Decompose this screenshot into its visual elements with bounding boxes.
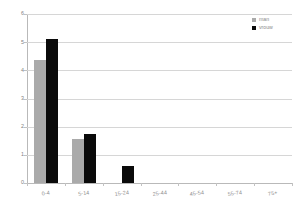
bar-vrouw-0-4[interactable]: [46, 39, 58, 183]
y-tick-label: 2: [8, 124, 24, 129]
plot-area: [27, 14, 292, 183]
chart-legend: man vrouw: [252, 17, 273, 30]
x-tick-mark: [254, 183, 255, 186]
x-tick-mark: [103, 183, 104, 186]
y-tick-label: 0: [8, 180, 24, 185]
bar-group: [141, 14, 179, 183]
x-tick-mark: [178, 183, 179, 186]
legend-swatch-icon-man: [252, 18, 256, 22]
x-tick-label-0-4: 0-4: [27, 188, 65, 199]
bar-group: [216, 14, 254, 183]
bar-vrouw-5-14[interactable]: [84, 134, 96, 183]
x-axis-line: [27, 183, 292, 184]
bar-group: [103, 14, 141, 183]
bar-vrouw-15-24[interactable]: [122, 166, 134, 183]
x-tick-label-55-74: 55-74: [216, 188, 254, 199]
y-tick-label: 4: [8, 68, 24, 73]
y-tick-label: 6: [8, 11, 24, 16]
legend-label-vrouw: vrouw: [259, 25, 273, 30]
legend-swatch-icon-vrouw: [252, 26, 256, 30]
legend-item-vrouw[interactable]: vrouw: [252, 25, 273, 30]
x-tick-label-25-44: 25-44: [140, 188, 178, 199]
bar-group: [178, 14, 216, 183]
x-tick-mark: [292, 183, 293, 186]
legend-item-man[interactable]: man: [252, 17, 273, 22]
x-tick-label-75+: 75+: [254, 188, 292, 199]
y-tick-label: 1: [8, 152, 24, 157]
legend-label-man: man: [259, 17, 269, 22]
y-tick-label: 5: [8, 40, 24, 45]
y-tick-label: 3: [8, 96, 24, 101]
x-tick-mark: [65, 183, 66, 186]
x-tick-label-45-54: 45-54: [178, 188, 216, 199]
bar-group: [254, 14, 292, 183]
bar-man-0-4[interactable]: [34, 60, 46, 183]
x-tick-mark: [216, 183, 217, 186]
x-tick-label-15-24: 15-24: [103, 188, 141, 199]
bar-chart: 0123456 0-45-1415-2425-4445-5455-7475+ m…: [0, 0, 302, 213]
x-tick-label-5-14: 5-14: [65, 188, 103, 199]
bar-man-5-14[interactable]: [72, 139, 84, 183]
x-tick-mark: [141, 183, 142, 186]
bar-group: [27, 14, 65, 183]
x-tick-mark: [27, 183, 28, 186]
bar-group: [65, 14, 103, 183]
